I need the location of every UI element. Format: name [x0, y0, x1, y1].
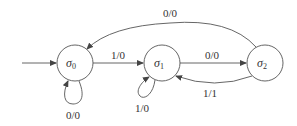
edge-label-s1-self: 1/0	[135, 102, 150, 114]
edge-s2-s1	[176, 76, 252, 83]
edge-label-s2-s1: 1/1	[203, 87, 217, 99]
edge-s2-s0	[87, 22, 256, 49]
state-s1: σ1	[144, 45, 180, 81]
edge-label-s0-self: 0/0	[66, 109, 81, 121]
state-diagram: 1/0 0/0 1/1 0/0 0/0 1/0 σ0 σ1 σ2	[0, 0, 297, 126]
state-s2: σ2	[247, 45, 283, 81]
edge-label-s0-s1: 1/0	[111, 49, 126, 61]
edge-s0-self	[65, 81, 83, 104]
edge-label-s2-s0: 0/0	[163, 7, 178, 19]
edge-s1-self	[138, 77, 155, 97]
edge-label-s1-s2: 0/0	[205, 49, 220, 61]
state-s0: σ0	[57, 45, 93, 81]
